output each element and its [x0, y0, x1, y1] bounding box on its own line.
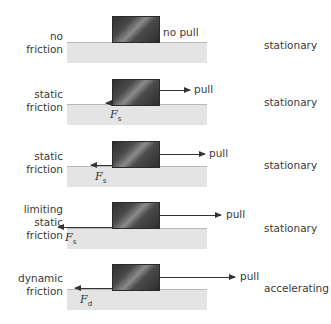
pull-arrow-icon: [160, 90, 190, 91]
pull-arrow-icon: [160, 277, 235, 278]
row-no-friction: no friction no pull stationary: [0, 0, 331, 66]
pull-label: no pull: [163, 26, 199, 39]
block: [112, 79, 160, 106]
pull-label: pull: [209, 147, 228, 160]
state-label: accelerating: [264, 282, 329, 295]
row-limiting-static-friction: limiting static friction pull Fs station…: [0, 190, 331, 256]
friction-force-label: Fs: [110, 109, 121, 125]
surface: [67, 228, 207, 249]
friction-label: static friction: [26, 88, 63, 114]
friction-label: no friction: [26, 30, 63, 56]
surface: [67, 104, 207, 125]
friction-label: limiting static friction: [24, 203, 63, 242]
state-label: stationary: [264, 159, 317, 172]
friction-arrow-icon: [75, 288, 112, 289]
pull-arrow-icon: [160, 215, 221, 216]
state-label: stationary: [264, 222, 317, 235]
surface: [67, 166, 207, 187]
state-label: stationary: [264, 39, 317, 52]
block: [112, 141, 160, 168]
row-dynamic-friction: dynamic friction pull Fd accelerating: [0, 256, 331, 324]
friction-arrow-icon: [91, 165, 112, 166]
row-static-friction-small: static friction pull Fs stationary: [0, 66, 331, 128]
friction-force-label: Fs: [65, 232, 76, 248]
block: [112, 202, 160, 229]
friction-label: dynamic friction: [18, 272, 63, 298]
state-label: stationary: [264, 96, 317, 109]
friction-arrow-icon: [58, 227, 112, 228]
friction-force-label: Fd: [80, 294, 92, 310]
pull-label: pull: [240, 270, 259, 283]
pull-label: pull: [226, 208, 245, 221]
pull-label: pull: [194, 83, 213, 96]
friction-force-label: Fs: [95, 171, 106, 187]
row-static-friction-medium: static friction pull Fs stationary: [0, 128, 331, 190]
block: [112, 264, 160, 291]
pull-arrow-icon: [160, 154, 205, 155]
surface: [67, 42, 207, 63]
friction-arrow-icon: [106, 103, 112, 104]
friction-label: static friction: [26, 150, 63, 176]
block: [112, 16, 160, 43]
